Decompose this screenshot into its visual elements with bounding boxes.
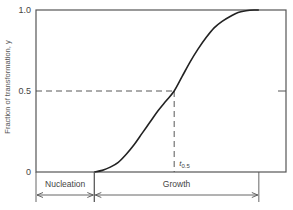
chart-svg: 00.51.0Fraction of transformation, yt0.5… — [0, 0, 293, 210]
t-half-annotation: t0.5 — [179, 159, 190, 169]
y-tick-label: 1.0 — [18, 5, 31, 15]
y-tick-label: 0.5 — [18, 86, 31, 96]
y-tick-label: 0 — [26, 167, 31, 177]
t-half-subscript: 0.5 — [181, 163, 190, 169]
phase-label-nucleation: Nucleation — [45, 179, 85, 189]
y-axis-label: Fraction of transformation, y — [3, 40, 12, 134]
phase-label-growth: Growth — [163, 179, 191, 189]
